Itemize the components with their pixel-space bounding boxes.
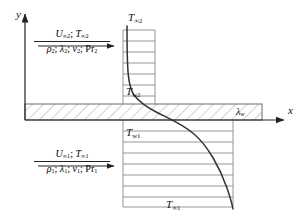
lower-stream-numerator: U∞1; T∞1	[34, 148, 110, 161]
prandtl-symbol: Pr	[85, 163, 94, 174]
temperature-subscript: ∞1	[81, 152, 89, 159]
prandtl-subscript: 1	[94, 167, 97, 174]
upper-stream-numerator: U∞2; T∞2	[34, 28, 110, 41]
upper-stream-denominator: ρ2; λ2; ν2; Pr2	[34, 41, 110, 55]
temp-subscript: ∞2	[134, 17, 142, 24]
temp-subscript: ∞1	[172, 204, 180, 211]
wall-conductivity-subscript: w	[240, 110, 244, 117]
x-axis-label: x	[288, 104, 293, 116]
free-stream-temp-lower-label: T∞1	[166, 198, 180, 211]
temp-subscript: w1	[132, 132, 140, 139]
velocity-symbol: U	[55, 148, 62, 159]
figure-canvas: y x λw T∞2 Tw2 Tw1 T∞1 U∞2; T∞2 ρ2; λ2; …	[0, 0, 303, 222]
temp-subscript: w2	[132, 91, 140, 98]
velocity-symbol: U	[55, 28, 62, 39]
prandtl-symbol: Pr	[85, 43, 94, 54]
lower-stream-properties: U∞1; T∞1 ρ1; λ1; ν1; Pr1	[34, 148, 110, 175]
lower-stream-denominator: ρ1; λ1; ν1; Pr1	[34, 161, 110, 175]
wall-band	[25, 104, 262, 120]
y-axis-label: y	[16, 8, 21, 20]
prandtl-subscript: 2	[94, 47, 97, 54]
temperature-subscript: ∞2	[81, 32, 89, 39]
wall-conductivity-label: λw	[236, 106, 245, 117]
free-stream-temp-upper-label: T∞2	[128, 11, 142, 24]
wall-temp-lower-label: Tw1	[126, 126, 140, 139]
upper-stream-properties: U∞2; T∞2 ρ2; λ2; ν2; Pr2	[34, 28, 110, 55]
wall-temp-upper-label: Tw2	[126, 85, 140, 98]
